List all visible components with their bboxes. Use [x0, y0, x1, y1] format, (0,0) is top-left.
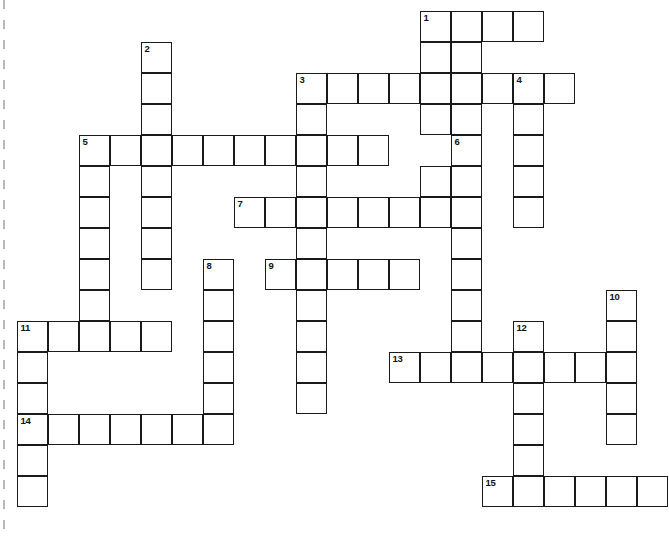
crossword-cell-numbered-1[interactable]: 1: [420, 11, 451, 42]
crossword-cell[interactable]: [606, 414, 637, 445]
crossword-cell[interactable]: [17, 476, 48, 507]
crossword-cell[interactable]: [389, 259, 420, 290]
crossword-cell[interactable]: [420, 197, 451, 228]
crossword-cell[interactable]: [296, 383, 327, 414]
crossword-cell[interactable]: [451, 197, 482, 228]
crossword-cell-numbered-6[interactable]: 6: [451, 135, 482, 166]
crossword-cell[interactable]: [327, 73, 358, 104]
crossword-cell[interactable]: [296, 166, 327, 197]
crossword-cell[interactable]: [420, 42, 451, 73]
crossword-cell[interactable]: [451, 11, 482, 42]
crossword-cell-numbered-8[interactable]: 8: [203, 259, 234, 290]
crossword-cell[interactable]: [544, 476, 575, 507]
crossword-cell[interactable]: [358, 197, 389, 228]
crossword-cell[interactable]: [141, 197, 172, 228]
crossword-cell[interactable]: [451, 290, 482, 321]
crossword-cell[interactable]: [544, 352, 575, 383]
crossword-cell[interactable]: [79, 228, 110, 259]
crossword-cell-numbered-13[interactable]: 13: [389, 352, 420, 383]
crossword-cell[interactable]: [296, 104, 327, 135]
crossword-cell[interactable]: [358, 259, 389, 290]
crossword-cell[interactable]: [79, 197, 110, 228]
crossword-cell[interactable]: [172, 135, 203, 166]
crossword-cell[interactable]: [513, 166, 544, 197]
crossword-cell[interactable]: [513, 414, 544, 445]
crossword-cell[interactable]: [513, 476, 544, 507]
crossword-cell-numbered-12[interactable]: 12: [513, 321, 544, 352]
crossword-cell[interactable]: [17, 383, 48, 414]
crossword-cell[interactable]: [296, 352, 327, 383]
crossword-cell[interactable]: [513, 445, 544, 476]
crossword-cell[interactable]: [141, 135, 172, 166]
crossword-cell[interactable]: [513, 197, 544, 228]
crossword-cell[interactable]: [606, 383, 637, 414]
crossword-cell[interactable]: [141, 73, 172, 104]
crossword-cell-numbered-10[interactable]: 10: [606, 290, 637, 321]
crossword-cell[interactable]: [513, 383, 544, 414]
crossword-cell[interactable]: [296, 290, 327, 321]
crossword-cell[interactable]: [79, 321, 110, 352]
crossword-cell[interactable]: [389, 197, 420, 228]
crossword-cell[interactable]: [79, 290, 110, 321]
crossword-cell[interactable]: [513, 11, 544, 42]
crossword-cell[interactable]: [203, 290, 234, 321]
crossword-cell[interactable]: [420, 104, 451, 135]
crossword-cell[interactable]: [110, 414, 141, 445]
crossword-cell-numbered-7[interactable]: 7: [234, 197, 265, 228]
crossword-cell[interactable]: [79, 259, 110, 290]
crossword-cell[interactable]: [296, 228, 327, 259]
crossword-cell-numbered-5[interactable]: 5: [79, 135, 110, 166]
crossword-cell[interactable]: [141, 321, 172, 352]
crossword-cell[interactable]: [451, 104, 482, 135]
crossword-cell-numbered-2[interactable]: 2: [141, 42, 172, 73]
crossword-cell[interactable]: [79, 414, 110, 445]
crossword-cell[interactable]: [296, 259, 327, 290]
crossword-cell[interactable]: [451, 321, 482, 352]
crossword-cell[interactable]: [110, 135, 141, 166]
crossword-cell[interactable]: [141, 259, 172, 290]
crossword-cell[interactable]: [48, 414, 79, 445]
crossword-cell[interactable]: [141, 228, 172, 259]
crossword-cell[interactable]: [203, 321, 234, 352]
crossword-cell[interactable]: [420, 352, 451, 383]
crossword-cell[interactable]: [575, 352, 606, 383]
crossword-cell[interactable]: [575, 476, 606, 507]
crossword-cell-numbered-4[interactable]: 4: [513, 73, 544, 104]
crossword-cell[interactable]: [482, 352, 513, 383]
crossword-cell[interactable]: [17, 445, 48, 476]
crossword-cell[interactable]: [420, 166, 451, 197]
crossword-cell[interactable]: [79, 166, 110, 197]
crossword-cell[interactable]: [451, 352, 482, 383]
crossword-cell[interactable]: [172, 414, 203, 445]
crossword-cell[interactable]: [203, 135, 234, 166]
crossword-cell[interactable]: [265, 197, 296, 228]
crossword-cell[interactable]: [606, 321, 637, 352]
crossword-cell[interactable]: [141, 414, 172, 445]
crossword-cell[interactable]: [513, 104, 544, 135]
crossword-cell[interactable]: [544, 73, 575, 104]
crossword-cell[interactable]: [451, 42, 482, 73]
crossword-cell[interactable]: [327, 135, 358, 166]
crossword-cell[interactable]: [606, 476, 637, 507]
crossword-cell[interactable]: [451, 166, 482, 197]
crossword-cell-numbered-9[interactable]: 9: [265, 259, 296, 290]
crossword-cell[interactable]: [110, 321, 141, 352]
crossword-cell[interactable]: [296, 135, 327, 166]
crossword-cell[interactable]: [451, 259, 482, 290]
crossword-cell[interactable]: [451, 228, 482, 259]
crossword-cell[interactable]: [358, 135, 389, 166]
crossword-cell[interactable]: [141, 104, 172, 135]
crossword-cell-numbered-14[interactable]: 14: [17, 414, 48, 445]
crossword-cell[interactable]: [234, 135, 265, 166]
crossword-cell-numbered-11[interactable]: 11: [17, 321, 48, 352]
crossword-cell[interactable]: [513, 352, 544, 383]
crossword-cell[interactable]: [482, 11, 513, 42]
crossword-cell[interactable]: [203, 414, 234, 445]
crossword-cell[interactable]: [141, 166, 172, 197]
crossword-cell[interactable]: [606, 352, 637, 383]
crossword-cell[interactable]: [513, 135, 544, 166]
crossword-cell[interactable]: [420, 73, 451, 104]
crossword-cell[interactable]: [327, 259, 358, 290]
crossword-cell[interactable]: [637, 476, 668, 507]
crossword-cell[interactable]: [358, 73, 389, 104]
